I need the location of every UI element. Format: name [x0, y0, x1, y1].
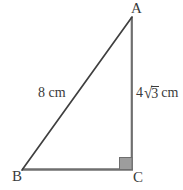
vertex-label-c: C	[133, 170, 143, 185]
radical-group: √3	[144, 86, 159, 101]
side-label-ab: 8 cm	[38, 86, 66, 100]
geometry-figure: A B C 8 cm 4 √3 cm	[0, 0, 183, 190]
side-ac-unit: cm	[161, 86, 178, 100]
side-label-ac: 4 √3 cm	[136, 86, 178, 101]
vertex-label-a: A	[131, 1, 142, 16]
side-ac-radicand: 3	[151, 86, 159, 101]
vertex-label-b: B	[12, 169, 22, 184]
right-angle-marker	[120, 158, 133, 170]
side-ac-coefficient: 4	[136, 86, 143, 100]
